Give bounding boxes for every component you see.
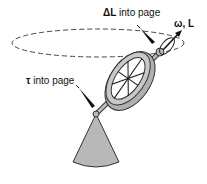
support-cone [73,114,119,167]
delta-L-symbol: ΔL [103,7,116,18]
omega-L-label: ω, L [174,19,194,29]
delta-L-arrow [140,28,155,44]
pivot-knob [93,111,99,117]
tau-text: into page [33,75,74,86]
tau-symbol: τ [26,75,30,86]
tau-label: τ into page [26,76,74,86]
tau-arrow [79,88,95,108]
delta-L-text: into page [119,7,160,18]
delta-L-label: ΔL into page [103,8,160,18]
